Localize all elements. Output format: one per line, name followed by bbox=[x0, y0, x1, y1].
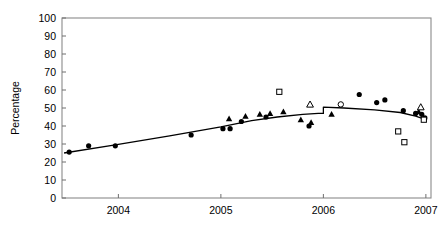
data-point-open-circle bbox=[338, 102, 343, 107]
data-point-filled-circle bbox=[401, 108, 406, 113]
y-tick-label: 80 bbox=[44, 48, 56, 60]
y-tick-label: 20 bbox=[44, 156, 56, 168]
x-tick-label: 2004 bbox=[107, 204, 131, 216]
data-point-open-square bbox=[396, 129, 401, 134]
x-tick-label: 2005 bbox=[209, 204, 233, 216]
data-point-filled-circle bbox=[239, 119, 244, 124]
data-point-filled-circle bbox=[67, 150, 72, 155]
data-point-filled-circle bbox=[357, 92, 362, 97]
data-point-filled-circle bbox=[374, 100, 379, 105]
y-tick-label: 90 bbox=[44, 30, 56, 42]
y-tick-label: 40 bbox=[44, 120, 56, 132]
y-tick-label: 70 bbox=[44, 66, 56, 78]
chart-container: 01020304050607080901002004200520062007Pe… bbox=[0, 0, 445, 240]
data-point-filled-circle bbox=[86, 143, 91, 148]
y-tick-label: 0 bbox=[50, 192, 56, 204]
plot-frame bbox=[62, 18, 431, 198]
data-point-filled-circle bbox=[228, 126, 233, 131]
scatter-chart: 01020304050607080901002004200520062007Pe… bbox=[0, 0, 445, 240]
x-tick-label: 2007 bbox=[414, 204, 438, 216]
y-tick-label: 30 bbox=[44, 138, 56, 150]
data-point-filled-circle bbox=[382, 97, 387, 102]
y-tick-label: 50 bbox=[44, 102, 56, 114]
x-tick-label: 2006 bbox=[312, 204, 336, 216]
y-tick-label: 10 bbox=[44, 174, 56, 186]
y-axis-title: Percentage bbox=[9, 81, 21, 135]
data-point-filled-circle bbox=[220, 126, 225, 131]
data-point-filled-circle bbox=[113, 143, 118, 148]
y-tick-label: 60 bbox=[44, 84, 56, 96]
data-point-open-square bbox=[402, 140, 407, 145]
y-tick-label: 100 bbox=[38, 12, 56, 24]
data-point-open-square bbox=[421, 117, 426, 122]
data-point-filled-circle bbox=[189, 132, 194, 137]
data-point-open-square bbox=[277, 89, 282, 94]
